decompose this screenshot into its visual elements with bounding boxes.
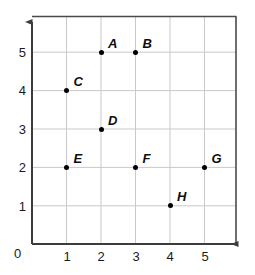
y-tick-label-5: 5 xyxy=(6,46,26,59)
data-point-label-H: H xyxy=(177,190,186,203)
data-point-label-G: G xyxy=(212,152,222,165)
data-point-dot xyxy=(202,165,207,170)
data-point-label-B: B xyxy=(143,37,152,50)
data-point-label-C: C xyxy=(74,75,83,88)
gridlines-horizontal xyxy=(32,52,236,206)
data-point-dot xyxy=(133,165,138,170)
data-point-dot xyxy=(133,50,138,55)
data-point-dot xyxy=(168,203,173,208)
coordinate-plane-chart: 5 4 3 2 1 0 1 2 3 4 5 A B C D E F G H xyxy=(0,0,255,275)
x-tick-label-3: 3 xyxy=(126,250,146,263)
data-point-dot xyxy=(99,50,104,55)
x-tick-label-1: 1 xyxy=(57,250,77,263)
data-point-label-A: A xyxy=(108,37,117,50)
x-tick-label-4: 4 xyxy=(160,250,180,263)
data-point-label-E: E xyxy=(74,152,83,165)
data-point-dot xyxy=(99,127,104,132)
origin-label: 0 xyxy=(14,247,21,260)
data-point-dot xyxy=(64,165,69,170)
y-tick-label-3: 3 xyxy=(6,123,26,136)
y-tick-label-1: 1 xyxy=(6,200,26,213)
x-tick-label-2: 2 xyxy=(91,250,111,263)
data-point-label-F: F xyxy=(143,152,151,165)
x-tick-label-5: 5 xyxy=(195,250,215,263)
y-tick-label-2: 2 xyxy=(6,161,26,174)
data-point-label-D: D xyxy=(108,114,117,127)
chart-canvas xyxy=(0,0,255,275)
y-tick-label-4: 4 xyxy=(6,84,26,97)
